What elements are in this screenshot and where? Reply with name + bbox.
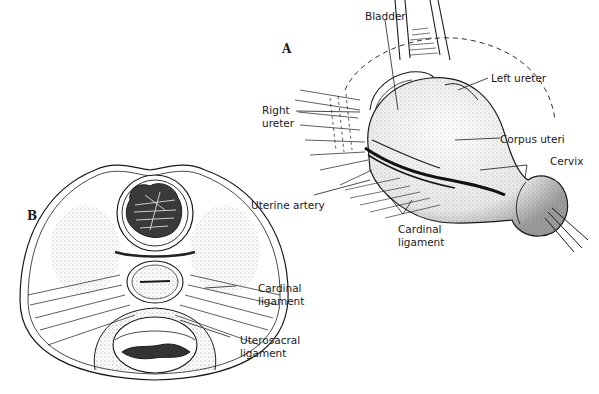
label-bladder: Bladder bbox=[365, 10, 406, 22]
label-cardinal-ligament-a-line1: Cardinal bbox=[398, 223, 442, 235]
label-right-ureter-line1: Right bbox=[262, 104, 290, 116]
label-cardinal-ligament-b-line2: ligament bbox=[258, 295, 304, 307]
anatomy-figure: A B Bladder Left ureter Right ureter Cor… bbox=[0, 0, 599, 394]
label-uterosacral-ligament-line2: ligament bbox=[240, 347, 286, 359]
label-corpus-uteri: Corpus uteri bbox=[500, 133, 565, 145]
label-right-ureter-line2: ureter bbox=[262, 117, 294, 129]
label-cardinal-ligament-b-line1: Cardinal bbox=[258, 282, 302, 294]
label-cardinal-ligament-a-line2: ligament bbox=[398, 236, 444, 248]
label-uterine-artery: Uterine artery bbox=[251, 199, 325, 211]
panel-a-drawing bbox=[295, 0, 588, 252]
panel-label-a: A bbox=[282, 42, 291, 56]
label-left-ureter: Left ureter bbox=[491, 72, 546, 84]
label-cervix: Cervix bbox=[550, 155, 583, 167]
label-uterosacral-ligament-line1: Uterosacral bbox=[240, 334, 300, 346]
panel-label-b: B bbox=[27, 209, 37, 223]
